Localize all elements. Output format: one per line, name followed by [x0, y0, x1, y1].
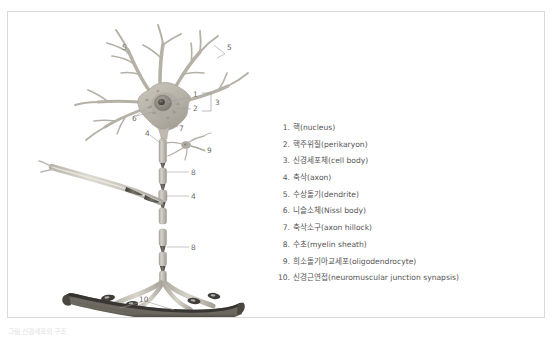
- legend-label: 축삭(axon): [293, 174, 331, 182]
- legend-number: 5.: [277, 191, 290, 199]
- legend-item: 10. 신경근연접(neuromuscular junction synapsi…: [277, 274, 532, 282]
- legend-number: 7.: [277, 224, 290, 232]
- legend-list: 1. 핵(nucleus) 2. 핵주위질(perikaryon) 3. 신경세…: [277, 124, 532, 291]
- callout-8-upper: 8: [191, 168, 196, 177]
- nucleolus: [158, 99, 165, 105]
- callout-4-upper: 4: [145, 129, 150, 138]
- legend-item: 1. 핵(nucleus): [277, 124, 532, 132]
- legend-label: 축삭소구(axon hillock): [293, 224, 372, 232]
- callout-8-lower: 8: [191, 243, 196, 252]
- callout-2: 2: [193, 104, 198, 113]
- legend-label: 니슬소체(Nissl body): [293, 207, 366, 215]
- legend-item: 7. 축삭소구(axon hillock): [277, 224, 532, 232]
- legend-label: 수상돌기(dendrite): [293, 191, 359, 199]
- legend-label: 수초(myelin sheath): [293, 241, 367, 249]
- legend-label: 신경세포체(cell body): [293, 157, 368, 165]
- legend-label: 신경근연접(neuromuscular junction synapsis): [293, 274, 459, 282]
- myelin-segment: [159, 229, 167, 246]
- node-of-ranvier: [160, 246, 166, 252]
- legend-item: 4. 축삭(axon): [277, 174, 532, 182]
- legend-number: 6.: [277, 207, 290, 215]
- legend-number: 4.: [277, 174, 290, 182]
- legend-item: 2. 핵주위질(perikaryon): [277, 141, 532, 149]
- callout-5-right: 5: [227, 43, 232, 52]
- legend-label: 핵(nucleus): [293, 124, 335, 132]
- callout-10: 10: [139, 295, 149, 304]
- legend-number: 3.: [277, 157, 290, 165]
- figure-root: 5 5 1 2 3 6 7 4 9 8 4 8 10 1. 핵(nucleus)…: [0, 0, 554, 339]
- legend-item: 5. 수상돌기(dendrite): [277, 191, 532, 199]
- callout-5-left: 5: [122, 43, 127, 52]
- node-of-ranvier: [160, 184, 165, 190]
- callout-9: 9: [207, 146, 212, 155]
- legend-item: 9. 희소돌기아교세포(oligodendrocyte): [277, 258, 532, 266]
- axon-collateral: [39, 161, 160, 203]
- figure-caption-text: 그림 신경세포의 구조: [8, 326, 268, 338]
- callout-7: 7: [179, 124, 184, 133]
- callout-3: 3: [215, 98, 220, 107]
- callout-4-node: 4: [191, 192, 196, 201]
- axon-main: [159, 139, 167, 284]
- figure-caption: 그림 신경세포의 구조: [8, 326, 268, 338]
- legend-number: 8.: [277, 241, 290, 249]
- myelin-segment: [159, 208, 167, 224]
- legend-number: 1.: [277, 124, 290, 132]
- legend-label: 희소돌기아교세포(oligodendrocyte): [293, 258, 416, 266]
- legend-item: 8. 수초(myelin sheath): [277, 241, 532, 249]
- oligodendrocyte: [162, 133, 211, 160]
- callout-6: 6: [132, 114, 137, 123]
- legend-number: 2.: [277, 141, 290, 149]
- legend-item: 3. 신경세포체(cell body): [277, 157, 532, 165]
- callout-1: 1: [193, 90, 198, 99]
- legend-number: 9.: [277, 258, 290, 266]
- myelin-segment: [159, 252, 167, 266]
- legend-item: 6. 니슬소체(Nissl body): [277, 207, 532, 215]
- legend-number: 10.: [277, 274, 290, 282]
- myelin-segment: [159, 168, 167, 184]
- node-of-ranvier: [160, 163, 165, 168]
- legend-label: 핵주위질(perikaryon): [293, 141, 368, 149]
